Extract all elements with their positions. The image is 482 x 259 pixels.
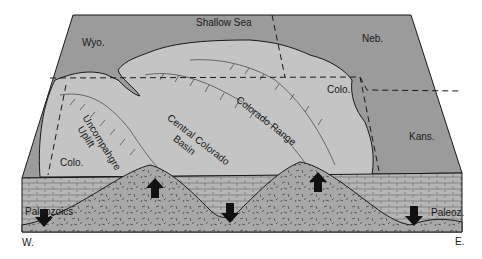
label-paleoz: Paleoz.	[431, 207, 464, 218]
label-colo-east: Colo.	[327, 84, 350, 95]
block-diagram	[0, 0, 482, 259]
label-paleozoics: Paleozoics	[25, 206, 73, 217]
label-colo-west: Colo.	[60, 157, 83, 168]
label-east: E.	[455, 236, 464, 247]
label-kans: Kans.	[409, 131, 435, 142]
label-wyo: Wyo.	[82, 37, 105, 48]
label-neb: Neb.	[362, 33, 383, 44]
label-shallow-sea: Shallow Sea	[196, 17, 252, 28]
label-west: W.	[22, 237, 34, 248]
